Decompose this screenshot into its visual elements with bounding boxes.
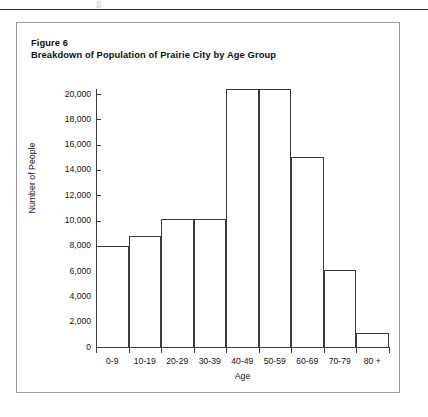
bar — [161, 219, 194, 347]
x-tick-label: 50-59 — [259, 356, 292, 366]
x-tick-label: 20-29 — [161, 356, 194, 366]
bar-series — [17, 23, 401, 394]
x-tick — [324, 347, 325, 353]
bar — [259, 89, 292, 347]
x-tick — [96, 347, 97, 353]
x-tick-label: 60-69 — [291, 356, 324, 366]
bar — [324, 270, 357, 347]
bar — [194, 219, 227, 347]
x-axis-title: Age — [96, 371, 389, 381]
x-tick — [356, 347, 357, 353]
bar — [226, 89, 259, 347]
x-tick — [389, 347, 390, 353]
x-tick — [259, 347, 260, 353]
x-tick-label: 30-39 — [194, 356, 227, 366]
x-tick — [194, 347, 195, 353]
figure-frame: Figure 6 Breakdown of Population of Prai… — [16, 22, 400, 393]
bar — [291, 157, 324, 347]
chart-plot-area: Number of People 02,0004,0006,0008,00010… — [17, 23, 401, 394]
x-tick — [161, 347, 162, 353]
page-artifact-glyph: g — [96, 0, 103, 8]
x-tick-label: 0-9 — [96, 356, 129, 366]
x-tick — [291, 347, 292, 353]
x-tick-label: 40-49 — [226, 356, 259, 366]
bar — [96, 246, 129, 347]
bar — [129, 236, 162, 347]
x-tick-label: 70-79 — [324, 356, 357, 366]
bar — [356, 333, 389, 347]
x-tick-label: 10-19 — [129, 356, 162, 366]
x-tick-label: 80 + — [356, 356, 389, 366]
x-tick — [226, 347, 227, 353]
page-horizontal-rule — [0, 9, 428, 10]
x-tick — [129, 347, 130, 353]
